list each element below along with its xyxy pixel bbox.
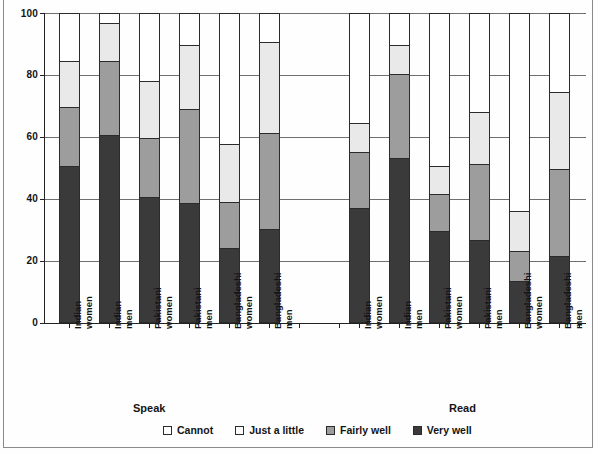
category-label-line1: Pakistani xyxy=(153,287,164,329)
category-label-line2: women xyxy=(244,273,255,330)
bar-7[interactable] xyxy=(349,13,370,323)
legend-swatch-icon xyxy=(163,426,172,435)
category-label-7: Indianwomen xyxy=(363,296,384,329)
figure-border-left xyxy=(3,0,4,447)
category-label-line1: Pakistani xyxy=(443,287,454,329)
bar-2[interactable] xyxy=(99,13,120,323)
category-label-line2: women xyxy=(84,296,95,329)
category-label-line1: Indian xyxy=(73,296,84,329)
y-tick-label-100: 100 xyxy=(4,8,38,19)
x-tick-5 xyxy=(229,323,230,328)
category-label-line2: men xyxy=(494,287,505,329)
x-tick-1 xyxy=(69,323,70,328)
figure-border-right xyxy=(592,0,593,447)
category-label-line1: Indian xyxy=(363,296,374,329)
legend-item-fairly-well[interactable]: Fairly well xyxy=(326,424,391,436)
category-label-line2: women xyxy=(164,287,175,329)
category-label-line1: Bangladeshi xyxy=(273,273,284,330)
bar-3[interactable] xyxy=(139,13,160,323)
x-tick-gap-2 xyxy=(339,323,340,328)
category-label-11: Bangladeshiwomen xyxy=(523,273,544,330)
y-tick-label-80: 80 xyxy=(4,69,38,80)
category-label-line1: Indian xyxy=(403,301,414,329)
category-label-8: Indianmen xyxy=(403,301,424,329)
category-label-line2: men xyxy=(204,287,215,329)
y-tick-label-60: 60 xyxy=(4,131,38,142)
plot-area xyxy=(44,13,586,324)
category-label-9: Pakistaniwomen xyxy=(443,287,464,329)
category-label-line2: men xyxy=(414,301,425,329)
gridline-40 xyxy=(45,199,586,200)
legend-swatch-icon xyxy=(326,426,335,435)
bar-8-segment-very-well xyxy=(390,158,409,322)
category-label-6: Bangladeshimen xyxy=(273,273,294,330)
x-tick-11 xyxy=(519,323,520,328)
legend-item-just-a-little[interactable]: Just a little xyxy=(235,424,304,436)
category-label-line1: Indian xyxy=(113,301,124,329)
legend-swatch-icon xyxy=(235,426,244,435)
category-label-5: Bangladeshiwomen xyxy=(233,273,254,330)
category-label-line1: Bangladeshi xyxy=(523,273,534,330)
y-tick-80 xyxy=(40,75,45,76)
y-tick-60 xyxy=(40,137,45,138)
figure-border-bottom xyxy=(3,447,593,448)
x-tick-7 xyxy=(359,323,360,328)
category-label-line1: Pakistani xyxy=(483,287,494,329)
category-label-line1: Pakistani xyxy=(193,287,204,329)
x-tick-8 xyxy=(399,323,400,328)
legend-swatch-icon xyxy=(413,426,422,435)
legend-item-cannot[interactable]: Cannot xyxy=(163,424,213,436)
category-label-line2: women xyxy=(374,296,385,329)
bar-9[interactable] xyxy=(429,13,450,323)
bar-2-segment-very-well xyxy=(100,135,119,322)
x-tick-gap-1 xyxy=(299,323,300,328)
category-label-10: Pakistanimen xyxy=(483,287,504,329)
legend-label: Very well xyxy=(427,424,472,436)
gridline-80 xyxy=(45,75,586,76)
category-label-1: Indianwomen xyxy=(73,296,94,329)
y-tick-label-0: 0 xyxy=(4,317,38,328)
y-tick-100 xyxy=(40,13,45,14)
gridline-20 xyxy=(45,261,586,262)
x-tick-10 xyxy=(479,323,480,328)
legend-label: Fairly well xyxy=(340,424,391,436)
x-tick-12 xyxy=(559,323,560,328)
bar-1[interactable] xyxy=(59,13,80,323)
category-label-3: Pakistaniwomen xyxy=(153,287,174,329)
category-label-4: Pakistanimen xyxy=(193,287,214,329)
chart-figure: Percentage 100 80 60 40 20 0 Indianwomen… xyxy=(0,0,598,454)
category-label-line2: men xyxy=(284,273,295,330)
x-tick-2 xyxy=(109,323,110,328)
category-label-12: Bangladeshimen xyxy=(563,273,584,330)
category-label-line1: Bangladeshi xyxy=(563,273,574,330)
bar-8[interactable] xyxy=(389,13,410,323)
group-label-speak: Speak xyxy=(133,402,165,414)
gridline-60 xyxy=(45,137,586,138)
group-label-read: Read xyxy=(449,402,476,414)
category-label-2: Indianmen xyxy=(113,301,134,329)
y-tick-label-20: 20 xyxy=(4,255,38,266)
category-label-line2: men xyxy=(124,301,135,329)
y-tick-40 xyxy=(40,199,45,200)
chart-legend: CannotJust a littleFairly wellVery well xyxy=(163,424,472,436)
category-label-line2: men xyxy=(574,273,585,330)
legend-label: Cannot xyxy=(177,424,213,436)
category-label-line2: women xyxy=(534,273,545,330)
y-tick-0 xyxy=(40,323,45,324)
category-label-line1: Bangladeshi xyxy=(233,273,244,330)
x-tick-4 xyxy=(189,323,190,328)
plot-inner xyxy=(45,13,586,323)
x-tick-6 xyxy=(269,323,270,328)
y-tick-20 xyxy=(40,261,45,262)
legend-item-very-well[interactable]: Very well xyxy=(413,424,472,436)
y-tick-label-40: 40 xyxy=(4,193,38,204)
category-label-line2: women xyxy=(454,287,465,329)
bar-4[interactable] xyxy=(179,13,200,323)
x-tick-3 xyxy=(149,323,150,328)
x-tick-9 xyxy=(439,323,440,328)
gridline-100 xyxy=(45,13,586,14)
legend-label: Just a little xyxy=(249,424,304,436)
bar-10[interactable] xyxy=(469,13,490,323)
